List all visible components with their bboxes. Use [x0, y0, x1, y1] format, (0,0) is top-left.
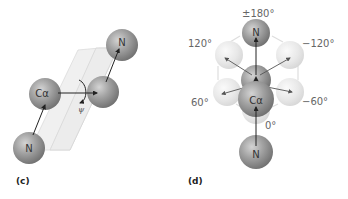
- panel-d: N Cα N ±180° 120° −120° 60° −60° 0° (d): [188, 8, 334, 186]
- atom-label-n-bottom-d: N: [252, 149, 259, 160]
- angle-label-neg60: −60°: [302, 96, 328, 107]
- psi-label: ψ: [78, 105, 85, 114]
- atom-label-n-top-d: N: [252, 27, 259, 38]
- angle-label-0: 0°: [265, 120, 276, 131]
- atom-label-calpha: Cα: [35, 88, 49, 99]
- figure-canvas: N Cα N ψ (c): [0, 0, 348, 199]
- atom-label-calpha-d: Cα: [249, 95, 263, 106]
- angle-label-neg120: −120°: [302, 38, 334, 49]
- atom-label-n-top: N: [118, 37, 125, 48]
- ghost-atom-60: [213, 78, 241, 106]
- panel-label-c: (c): [16, 176, 30, 186]
- atom-n-top: N: [106, 29, 138, 61]
- panel-label-d: (d): [188, 176, 203, 186]
- atom-c-carbonyl: [87, 76, 119, 108]
- panel-c: N Cα N ψ (c): [13, 29, 138, 186]
- angle-label-120: 120°: [188, 38, 212, 49]
- atom-n-bottom: N: [13, 132, 45, 164]
- ghost-atom-neg120: [276, 41, 304, 69]
- angle-label-60: 60°: [191, 97, 209, 108]
- atom-label-n: N: [25, 143, 32, 154]
- angle-label-180: ±180°: [242, 8, 274, 19]
- ghost-atom-120: [215, 41, 243, 69]
